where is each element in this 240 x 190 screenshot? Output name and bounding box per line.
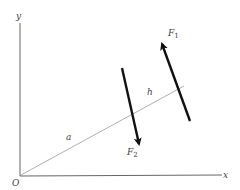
x-axis-label: x: [223, 170, 228, 180]
force-f2-arrow: [122, 68, 139, 144]
y-axis-label: y: [15, 11, 22, 21]
x-axis: [20, 175, 222, 176]
distance-line: [21, 86, 184, 175]
distance-a-label: a: [66, 132, 71, 142]
force-couple-diagram: y x O a h F1 F2: [0, 0, 240, 190]
force-f1-arrow: [162, 44, 190, 121]
distance-h-label: h: [147, 87, 153, 97]
force-f2-label: F2: [126, 147, 138, 159]
origin-label: O: [12, 178, 20, 188]
force-f1-label: F1: [167, 28, 179, 40]
